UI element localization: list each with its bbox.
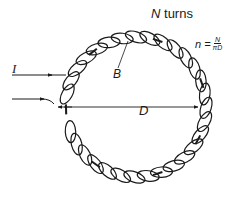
coil-loop — [164, 37, 186, 61]
diameter-label: D — [139, 104, 148, 117]
coil-loop — [60, 69, 82, 93]
field-label: B — [113, 68, 121, 80]
coil-loop — [198, 82, 211, 105]
coil-loop — [162, 158, 186, 174]
coil-loop — [69, 132, 84, 156]
current-label: I — [12, 62, 16, 75]
coil-loop — [96, 160, 119, 182]
toroid-diagram — [0, 0, 244, 201]
turns-word: turns — [164, 6, 193, 21]
turns-symbol: N — [151, 6, 160, 21]
field-leader-line — [118, 41, 128, 68]
coil-loop — [66, 58, 90, 80]
coil-loop — [182, 136, 206, 158]
coil-loop — [151, 31, 174, 53]
coil-loop — [189, 123, 211, 146]
turn-density-formula: n = N πD — [195, 36, 222, 52]
formula-numerator: N — [214, 36, 221, 44]
formula-fraction: N πD — [213, 36, 223, 52]
formula-denominator: πD — [213, 44, 223, 52]
coil-loop — [137, 169, 160, 182]
formula-lhs: n = — [195, 39, 211, 50]
turns-label: N turns — [151, 7, 193, 20]
current-lead-out-tail — [42, 99, 54, 104]
coil-loop — [111, 32, 134, 45]
coil-loop — [187, 57, 203, 81]
